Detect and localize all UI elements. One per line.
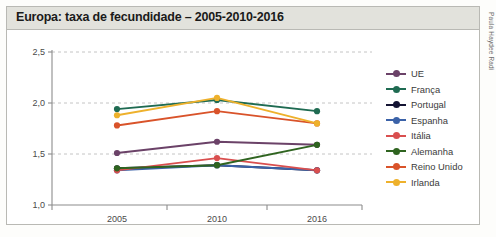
data-point bbox=[214, 155, 220, 161]
legend-label: Espanha bbox=[411, 115, 448, 126]
legend-swatch-icon bbox=[386, 68, 406, 79]
legend-item[interactable]: Reino Unido bbox=[386, 159, 486, 175]
data-point bbox=[114, 112, 120, 118]
data-point bbox=[214, 108, 220, 114]
y-tick-label: 1,0 bbox=[32, 200, 45, 210]
legend-item[interactable]: França bbox=[386, 82, 486, 98]
y-tick-label: 1,5 bbox=[32, 149, 45, 159]
legend-label: UE bbox=[411, 68, 424, 79]
x-tick-label: 2005 bbox=[107, 214, 127, 224]
legend-label: Itália bbox=[411, 130, 431, 141]
legend-swatch-icon bbox=[386, 146, 406, 157]
page-title: Europa: taxa de fecundidade – 2005-2010-… bbox=[16, 10, 284, 24]
data-point bbox=[114, 165, 120, 171]
data-point bbox=[214, 162, 220, 168]
data-point bbox=[114, 106, 120, 112]
legend-swatch-icon bbox=[386, 99, 406, 110]
legend-item[interactable]: Espanha bbox=[386, 113, 486, 129]
x-tick-label: 2010 bbox=[207, 214, 227, 224]
legend-swatch-icon bbox=[386, 177, 406, 188]
legend-label: Alemanha bbox=[411, 146, 453, 157]
legend-swatch-icon bbox=[386, 130, 406, 141]
legend-item[interactable]: Itália bbox=[386, 128, 486, 144]
chart-page: Europa: taxa de fecundidade – 2005-2010-… bbox=[0, 0, 496, 237]
legend-label: Portugal bbox=[411, 99, 446, 110]
data-point bbox=[314, 142, 320, 148]
data-point bbox=[214, 95, 220, 101]
legend-label: Reino Unido bbox=[411, 161, 463, 172]
legend-item[interactable]: Alemanha bbox=[386, 144, 486, 160]
data-point bbox=[214, 139, 220, 145]
legend-item[interactable]: Portugal bbox=[386, 97, 486, 113]
legend-item[interactable]: Irlanda bbox=[386, 175, 486, 191]
data-point bbox=[114, 122, 120, 128]
credit-text: Paula Haydee Radi bbox=[488, 12, 495, 70]
legend-item[interactable]: UE bbox=[386, 66, 486, 82]
y-tick-label: 2,0 bbox=[32, 98, 45, 108]
legend-swatch-icon bbox=[386, 161, 406, 172]
data-point bbox=[314, 167, 320, 173]
data-point bbox=[314, 120, 320, 126]
legend-swatch-icon bbox=[386, 84, 406, 95]
chart-legend: UEFrançaPortugalEspanhaItáliaAlemanhaRei… bbox=[386, 66, 486, 190]
legend-swatch-icon bbox=[386, 115, 406, 126]
y-tick-label: 2,5 bbox=[32, 47, 45, 57]
data-point bbox=[114, 150, 120, 156]
x-tick-label: 2016 bbox=[307, 214, 327, 224]
legend-label: Irlanda bbox=[411, 177, 440, 188]
legend-label: França bbox=[411, 84, 440, 95]
data-point bbox=[314, 108, 320, 114]
